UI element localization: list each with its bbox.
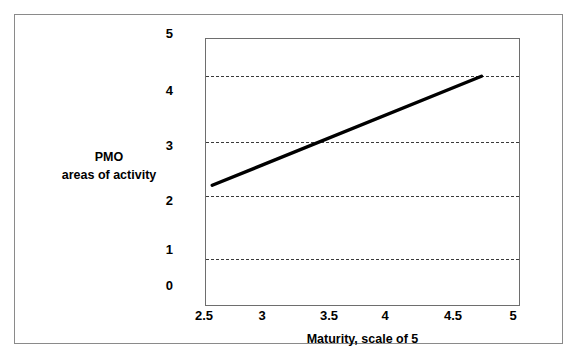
series-line-segment (212, 76, 481, 185)
y-tick-label: 4 (139, 84, 173, 98)
x-tick-label: 3 (240, 309, 284, 323)
x-tick-label: 4 (363, 309, 407, 323)
figure-frame: 5 4 3 2 1 0 PMO areas of activity 2.5 3 … (14, 14, 563, 344)
x-tick-label: 4.5 (431, 309, 475, 323)
y-tick-label: 0 (139, 279, 173, 293)
x-tick-label: 3.5 (307, 309, 351, 323)
series-line-chart (206, 39, 519, 305)
y-tick-label: 2 (139, 194, 173, 208)
x-tick-label: 5 (491, 309, 535, 323)
chart-screenshot: 5 4 3 2 1 0 PMO areas of activity 2.5 3 … (0, 0, 580, 359)
y-tick-label: 5 (139, 27, 173, 41)
y-axis-title-line1: PMO (95, 150, 123, 164)
y-axis-title-line2: areas of activity (33, 166, 185, 184)
x-axis-title: Maturity, scale of 5 (205, 332, 520, 346)
plot-area (205, 38, 520, 306)
y-tick-label: 1 (139, 243, 173, 257)
x-tick-label: 2.5 (182, 309, 226, 323)
y-axis-title: PMO areas of activity (33, 148, 185, 184)
